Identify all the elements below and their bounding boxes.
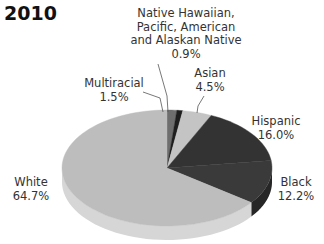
label-native-value: 0.9% bbox=[118, 48, 254, 62]
label-asian-value: 4.5% bbox=[180, 81, 240, 95]
label-asian-name: Asian bbox=[180, 67, 240, 81]
label-native-line3: and Alaskan Native bbox=[118, 34, 254, 48]
label-hispanic-name: Hispanic bbox=[236, 115, 316, 129]
label-white: White 64.7% bbox=[0, 176, 62, 203]
label-black-name: Black bbox=[268, 176, 324, 190]
leader-native bbox=[158, 64, 168, 112]
label-hispanic-value: 16.0% bbox=[236, 129, 316, 143]
label-multiracial-name: Multiracial bbox=[74, 77, 154, 91]
label-white-value: 64.7% bbox=[0, 190, 62, 204]
label-native-line2: Pacific, American bbox=[118, 21, 254, 35]
label-asian: Asian 4.5% bbox=[180, 67, 240, 94]
label-multiracial: Multiracial 1.5% bbox=[74, 77, 154, 104]
label-native: Native Hawaiian, Pacific, American and A… bbox=[118, 7, 254, 61]
label-multiracial-value: 1.5% bbox=[74, 91, 154, 105]
leader-asian bbox=[197, 96, 204, 113]
label-hispanic: Hispanic 16.0% bbox=[236, 115, 316, 142]
label-native-line1: Native Hawaiian, bbox=[118, 7, 254, 21]
label-black: Black 12.2% bbox=[268, 176, 324, 203]
label-black-value: 12.2% bbox=[268, 190, 324, 204]
label-white-name: White bbox=[0, 176, 62, 190]
